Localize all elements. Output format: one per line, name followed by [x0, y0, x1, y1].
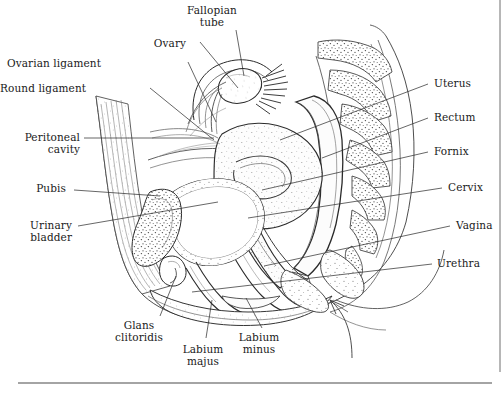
perineum-arrow [330, 300, 352, 358]
label-fornix: Fornix [434, 146, 469, 158]
label-pubis: Pubis [0, 183, 66, 195]
label-ovarian-ligament: Ovarian ligament [1, 58, 101, 70]
label-urinary-bladder: Urinary bladder [0, 220, 72, 243]
label-vagina: Vagina [456, 220, 493, 232]
label-urethra: Urethra [437, 258, 480, 270]
ovary [214, 64, 266, 109]
label-cervix: Cervix [448, 182, 483, 194]
label-labium-majus: Labium majus [172, 344, 234, 367]
label-uterus: Uterus [434, 78, 471, 90]
label-ovary: Ovary [130, 38, 210, 50]
label-peritoneal-cavity: Peritoneal cavity [0, 132, 80, 155]
label-round-ligament: Round ligament [0, 83, 64, 95]
leader-round-ligament [150, 88, 214, 140]
label-fallopian-tube: Fallopian tube [162, 5, 262, 28]
clitoris [160, 256, 187, 286]
label-rectum: Rectum [434, 112, 476, 124]
leader-ovarian-ligament [188, 62, 216, 122]
label-glans-clitoridis: Glans clitoridis [108, 320, 170, 343]
anatomical-figure: Fallopian tube Ovary Ovarian ligament Ro… [0, 0, 503, 397]
label-labium-minus: Labium minus [228, 332, 290, 355]
